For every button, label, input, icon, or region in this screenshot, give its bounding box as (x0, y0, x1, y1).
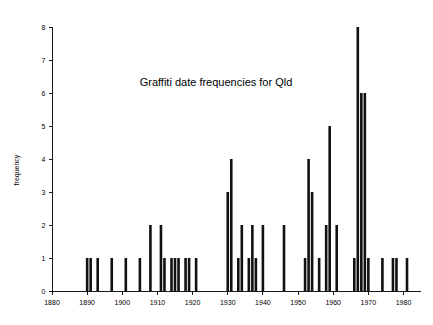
x-tick-label: 1920 (185, 299, 201, 306)
histogram-bar (360, 93, 363, 291)
y-tick-label: 4 (42, 156, 46, 163)
x-tick-group: 1880189019001910192019301940195019601970… (44, 291, 411, 306)
x-tick-label: 1910 (150, 299, 166, 306)
bars-group (86, 27, 408, 291)
histogram-bar (226, 192, 229, 291)
x-tick-label: 1950 (290, 299, 306, 306)
histogram-bar (367, 258, 370, 291)
x-tick-label: 1900 (115, 299, 131, 306)
y-tick-label: 7 (42, 57, 46, 64)
chart-container: 012345678 188018901900191019201930194019… (0, 0, 433, 325)
y-tick-label: 6 (42, 90, 46, 97)
histogram-bar (160, 225, 163, 291)
histogram-bar (184, 258, 187, 291)
y-tick-label: 1 (42, 255, 46, 262)
histogram-bar (318, 258, 321, 291)
histogram-bar (110, 258, 113, 291)
y-tick-label: 8 (42, 24, 46, 31)
x-tick-label: 1930 (220, 299, 236, 306)
histogram-bar (195, 258, 198, 291)
histogram-bar (125, 258, 128, 291)
histogram-bar (353, 258, 356, 291)
y-tick-label: 3 (42, 189, 46, 196)
histogram-bar (283, 225, 286, 291)
histogram-bar (304, 258, 307, 291)
histogram-bar (188, 258, 191, 291)
histogram-bar (177, 258, 180, 291)
histogram-bar (262, 225, 265, 291)
x-tick-label: 1960 (325, 299, 341, 306)
histogram-bar (248, 258, 251, 291)
histogram-bar (89, 258, 92, 291)
histogram-bar (328, 126, 331, 291)
histogram-bar (251, 225, 254, 291)
histogram-bar (335, 225, 338, 291)
histogram-bar (230, 159, 233, 291)
y-tick-label: 5 (42, 123, 46, 130)
histogram-bar (364, 93, 367, 291)
x-tick-label: 1940 (255, 299, 271, 306)
histogram-bar (392, 258, 395, 291)
x-tick-label: 1880 (44, 299, 60, 306)
histogram-bar (139, 258, 142, 291)
y-axis-label: frequency (13, 154, 21, 185)
y-tick-group: 012345678 (42, 24, 52, 295)
x-tick-label: 1890 (79, 299, 95, 306)
histogram-bar (163, 258, 166, 291)
histogram-bar (395, 258, 398, 291)
histogram-bar (241, 225, 244, 291)
histogram-bar (325, 225, 328, 291)
y-tick-label: 0 (42, 288, 46, 295)
histogram-bar (149, 225, 152, 291)
histogram-chart: 012345678 188018901900191019201930194019… (0, 0, 433, 325)
histogram-bar (96, 258, 99, 291)
histogram-bar (170, 258, 173, 291)
histogram-bar (381, 258, 384, 291)
histogram-bar (406, 258, 409, 291)
x-tick-label: 1970 (361, 299, 377, 306)
histogram-bar (357, 27, 360, 291)
chart-title: Graffiti date frequencies for Qld (140, 76, 293, 88)
histogram-bar (255, 258, 258, 291)
histogram-bar (311, 192, 314, 291)
histogram-bar (307, 159, 310, 291)
histogram-bar (174, 258, 177, 291)
x-tick-label: 1980 (396, 299, 412, 306)
histogram-bar (237, 258, 240, 291)
y-tick-label: 2 (42, 222, 46, 229)
histogram-bar (86, 258, 89, 291)
